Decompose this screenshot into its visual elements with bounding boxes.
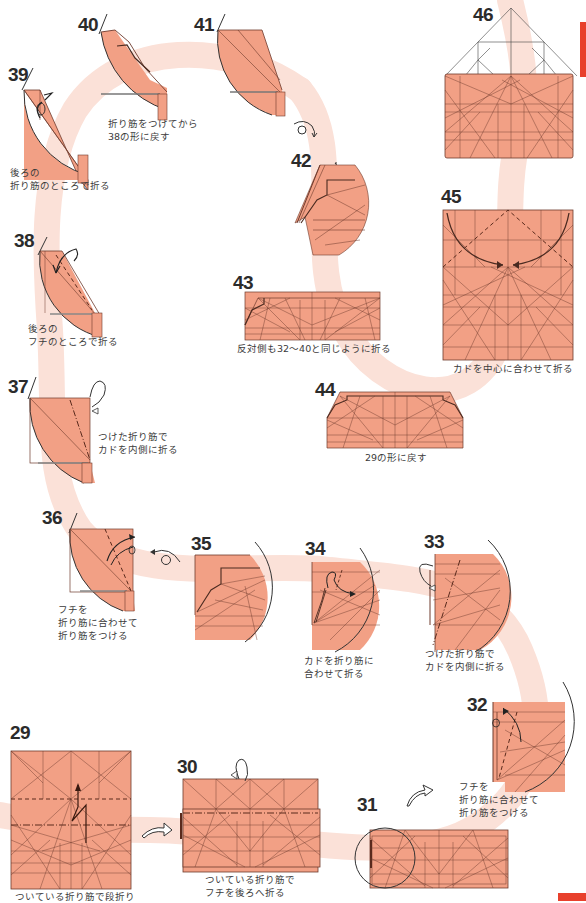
turn-over-icon [292,118,322,140]
step-40-caption: 折り筋をつけてから 38の形に戻す [108,117,198,143]
step-29-diagram [0,715,150,901]
step-45-caption: カドを中心に合わせて折る [453,362,573,375]
step-45: 45 カドを中心に合わせて折る [435,185,580,380]
turn-over-icon [148,548,184,570]
step-34: 34 カドを折り筋に 合わせて折る [300,530,390,680]
step-33-caption: つけた折り筋で カドを内側に折る [425,647,505,673]
step-44: 44 29の形に戻す [315,380,475,465]
step-43-caption: 反対側も32～40と同じように折る [237,342,391,355]
step-38-caption: 後ろの フチのところで折る [28,322,118,348]
step-35-diagram [185,530,275,645]
step-33: 33 つけた折り筋で カドを内側に折る [405,530,515,675]
step-41: 41 [210,10,320,125]
step-43: 43 反対側も32～40と同じように折る [230,270,400,365]
step-36: 36 フチを 折り筋に合わせて 折り筋をつける [45,505,155,640]
step-30-caption: ついている折り筋で フチを後ろへ折る [205,873,295,899]
step-41-diagram [210,10,320,125]
inside-reverse-fold-icon [420,564,433,586]
step-39-caption: 後ろの 折り筋のところで折る [10,166,110,192]
step-29-caption: ついている折り筋で段折り [15,890,135,903]
fold-behind-arrow-icon [236,759,248,781]
step-44-caption: 29の形に戻す [365,451,427,464]
step-34-caption: カドを折り筋に 合わせて折る [304,654,374,680]
step-45-diagram [435,185,580,380]
step-37-caption: つけた折り筋で カドを内側に折る [98,430,178,456]
step-37-diagram [0,365,200,485]
step-31-diagram [345,790,525,901]
page-edge-marker-top [580,22,586,77]
step-35: 35 [185,530,275,645]
step-46-diagram [440,0,575,165]
step-36-caption: フチを 折り筋に合わせて 折り筋をつける [58,603,138,642]
next-step-arrow-icon [140,820,174,840]
inside-reverse-fold-icon [90,381,105,407]
step-37: 37 つけた折り筋で カドを内側に折る [0,365,200,485]
step-46: 46 [440,0,575,165]
step-29: 29 ついている折り筋で段折り [0,715,150,901]
step-42-diagram [285,145,375,255]
step-31: 31 [345,790,525,901]
step-30: 30 ついている折り筋で フチを後ろへ折る [175,755,325,901]
step-42: 42 [285,145,375,255]
step-38: 38 後ろの フチのところで折る [0,225,130,350]
page-edge-marker-bottom [558,893,586,901]
